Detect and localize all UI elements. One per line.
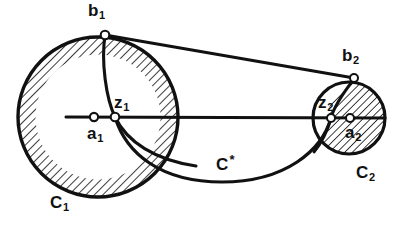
label-z1-base: z <box>114 93 123 112</box>
label-b1-base: b <box>88 1 99 20</box>
label-b1: b1 <box>88 2 105 19</box>
figure-canvas: b1 b2 z1 z2 a1 a2 C1 C2 C* <box>0 0 413 228</box>
label-b2-base: b <box>342 46 353 65</box>
label-cstar-sup: * <box>229 152 234 167</box>
label-c1-base: C <box>50 193 62 212</box>
label-c1: C1 <box>50 194 69 211</box>
label-z1: z1 <box>114 94 129 111</box>
label-a1-base: a <box>87 124 97 143</box>
label-z2-base: z <box>318 93 327 112</box>
label-z1-sub: 1 <box>123 101 129 113</box>
label-cstar-base: C <box>216 155 228 174</box>
label-c2-base: C <box>356 163 368 182</box>
label-z2-sub: 2 <box>327 101 333 113</box>
point-z2 <box>327 114 335 122</box>
label-a2-base: a <box>345 123 355 142</box>
label-z2: z2 <box>318 94 333 111</box>
label-c1-sub: 1 <box>63 201 69 213</box>
label-cstar: C* <box>216 156 234 173</box>
label-a2-sub: 2 <box>355 131 361 143</box>
label-a2: a2 <box>345 124 361 141</box>
point-a1 <box>90 113 98 121</box>
label-a1-sub: 1 <box>97 132 103 144</box>
label-c2: C2 <box>356 164 375 181</box>
label-b1-sub: 1 <box>99 9 105 21</box>
label-c2-sub: 2 <box>369 171 375 183</box>
point-a2 <box>346 114 354 122</box>
label-a1: a1 <box>87 125 103 142</box>
label-b2: b2 <box>342 47 359 64</box>
label-b2-sub: 2 <box>353 54 359 66</box>
point-b1 <box>101 31 110 40</box>
point-b2 <box>350 74 358 82</box>
point-z1 <box>111 113 120 122</box>
